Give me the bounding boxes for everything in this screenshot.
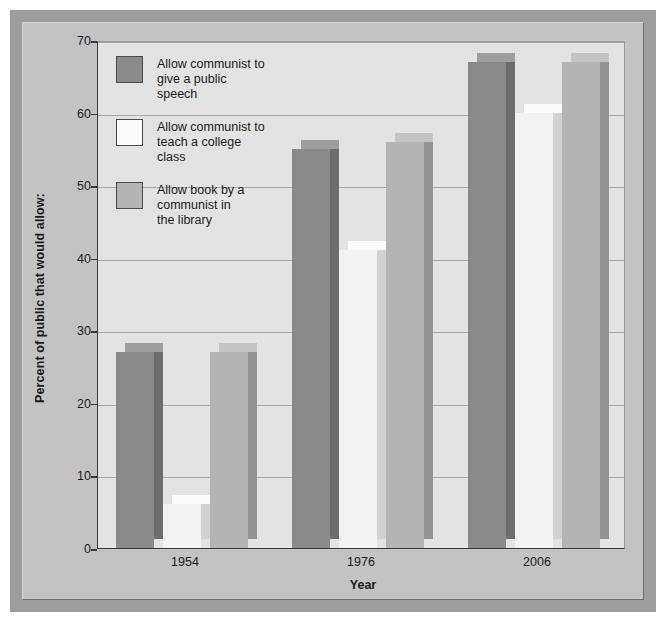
y-tick-label: 50 [51, 179, 91, 193]
bar-top [219, 343, 257, 352]
bar-top [571, 53, 609, 62]
bar [468, 62, 506, 548]
bar [116, 352, 154, 548]
y-tick-label: 20 [51, 397, 91, 411]
bar-face [468, 62, 506, 548]
y-tick-label: 0 [51, 542, 91, 556]
legend-swatch [116, 56, 143, 83]
y-tick-label: 40 [51, 252, 91, 266]
bar-top [172, 495, 210, 504]
bar-top [125, 343, 163, 352]
bar-side [553, 104, 562, 539]
bar-face [163, 504, 201, 548]
bar-side [330, 140, 339, 539]
legend-swatch [116, 119, 143, 146]
plot-inner: Allow communist togive a publicspeechAll… [98, 42, 624, 548]
y-tick-label: 10 [51, 469, 91, 483]
bar-side [424, 133, 433, 539]
legend-label: Allow book by acommunist inthe library [157, 182, 245, 228]
bar-top [395, 133, 433, 142]
bar-face [339, 250, 377, 548]
figure-inner: Percent of public that would allow: 0102… [22, 22, 644, 600]
y-tick-mark [91, 549, 97, 551]
x-tick-label: 2006 [523, 555, 551, 569]
legend-item: Allow communist toteach a collegeclass [116, 119, 326, 165]
figure-frame: Percent of public that would allow: 0102… [10, 10, 656, 612]
bar-side [248, 343, 257, 539]
x-axis-title: Year [83, 578, 643, 592]
bar-face [210, 352, 248, 548]
bar-top [477, 53, 515, 62]
x-tick-label: 1954 [171, 555, 199, 569]
y-axis-ticks: 010203040506070 [45, 41, 91, 549]
bar-side [506, 53, 515, 539]
legend-swatch [116, 182, 143, 209]
bar-side [600, 53, 609, 539]
bar-top [524, 104, 562, 113]
bar [386, 142, 424, 548]
bar [163, 504, 201, 548]
bar-face [515, 113, 553, 548]
bar-top [348, 241, 386, 250]
bar [210, 352, 248, 548]
legend-item: Allow book by acommunist inthe library [116, 182, 326, 228]
y-tick-label: 60 [51, 107, 91, 121]
bar-face [386, 142, 424, 548]
legend-label: Allow communist toteach a collegeclass [157, 119, 265, 165]
bar-side [154, 343, 163, 539]
x-axis-tick-labels: 195419762006 [97, 555, 625, 575]
y-tick-label: 30 [51, 324, 91, 338]
x-tick-label: 1976 [347, 555, 375, 569]
legend-label: Allow communist togive a publicspeech [157, 56, 265, 102]
bar-face [562, 62, 600, 548]
bar [339, 250, 377, 548]
chart-legend: Allow communist togive a publicspeechAll… [116, 56, 326, 245]
bar-side [377, 241, 386, 539]
bar [562, 62, 600, 548]
y-tick-label: 70 [51, 34, 91, 48]
gridline [98, 42, 624, 43]
plot-area: Allow communist togive a publicspeechAll… [97, 41, 625, 549]
bar-face [116, 352, 154, 548]
legend-item: Allow communist togive a publicspeech [116, 56, 326, 102]
bar [515, 113, 553, 548]
